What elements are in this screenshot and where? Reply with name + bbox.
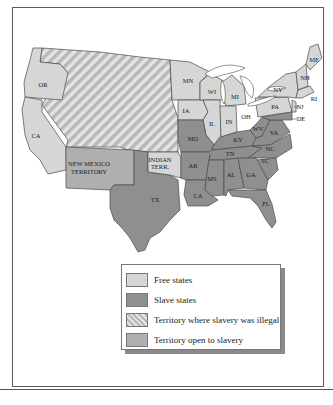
label-nm-1: NEW MEXICO [68,160,110,167]
label-NC: NC [265,145,274,152]
state-NY [258,72,298,98]
swatch-slave [126,293,148,307]
label-IL: IL [209,120,215,127]
label-VA: VA [270,129,279,136]
label-nm-2: TERRITORY [71,168,107,175]
label-DE: DE [297,115,306,122]
swatch-free [126,273,148,287]
label-SC: SC [261,157,269,164]
legend-item-illegal-territory: Territory where slavery was illegal [126,310,276,329]
label-RI: RI [311,95,318,102]
label-MO: MO [188,135,199,142]
label-GA: GA [246,171,256,178]
label-CA: CA [31,132,40,139]
label-TN: TN [226,150,235,157]
label-AL: AL [227,171,236,178]
label-IN: IN [226,118,233,125]
label-WV: WV [253,125,264,132]
legend-label: Territory open to slavery [154,335,243,345]
label-OH: OH [241,113,251,120]
legend-label: Slave states [154,295,196,305]
map-legend: Free states Slave states Territory where… [121,264,281,350]
label-MN: MN [183,77,194,84]
label-NY: NY [273,86,283,93]
label-AR: AR [188,162,198,169]
state-FL [228,190,276,228]
label-MS: MS [207,175,217,182]
label-IA: IA [183,107,190,114]
legend-label: Territory where slavery was illegal [154,315,279,325]
label-WI: WI [208,88,216,95]
label-PA: PA [271,103,279,110]
label-it-2: TERR. [151,163,170,170]
label-NH: NH [300,74,310,81]
lake-superior [205,65,245,78]
legend-label: Free states [154,275,192,285]
label-TX: TX [151,196,160,203]
swatch-illegal [126,313,148,327]
bottom-rule [0,389,333,390]
label-it-1: INDIAN [148,156,171,163]
label-LA: LA [194,192,203,199]
legend-item-open-territory: Territory open to slavery [126,330,276,349]
label-OR: OR [38,81,48,88]
legend-item-free-states: Free states [126,270,276,289]
label-FL: FL [262,200,270,207]
label-MI: MI [231,93,239,100]
label-KY: KY [233,136,243,143]
label-ME: ME [309,56,319,63]
label-NJ: NJ [296,103,304,110]
legend-item-slave-states: Slave states [126,290,276,309]
swatch-open [126,333,148,347]
